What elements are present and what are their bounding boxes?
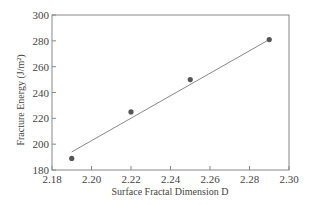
- data-point: [267, 37, 272, 42]
- y-tick-label: 260: [33, 61, 50, 73]
- y-tick-label: 280: [33, 35, 50, 47]
- x-axis-ticks: 2.182.202.222.242.262.282.30: [42, 166, 299, 185]
- x-tick-label: 2.18: [42, 173, 62, 185]
- regression-line: [72, 40, 270, 152]
- y-tick-label: 240: [33, 87, 50, 99]
- data-point: [128, 109, 133, 114]
- y-tick-label: 300: [33, 9, 50, 21]
- x-tick-label: 2.22: [121, 173, 140, 185]
- y-tick-label: 220: [33, 112, 50, 124]
- fit-line: [72, 40, 270, 152]
- x-tick-label: 2.30: [279, 173, 299, 185]
- x-tick-label: 2.20: [82, 173, 102, 185]
- data-point: [188, 77, 193, 82]
- fracture-energy-chart: 180200220240260280300 2.182.202.222.242.…: [0, 0, 313, 205]
- x-tick-label: 2.28: [240, 173, 260, 185]
- x-tick-label: 2.26: [200, 173, 220, 185]
- x-tick-label: 2.24: [161, 173, 181, 185]
- plot-frame: [52, 15, 289, 170]
- y-axis-label: Fracture Energy (J/m²): [15, 54, 27, 145]
- x-axis-label: Surface Fractal Dimension D: [112, 186, 229, 197]
- data-point: [69, 156, 74, 161]
- y-tick-label: 200: [33, 138, 50, 150]
- plot-border: [52, 15, 289, 170]
